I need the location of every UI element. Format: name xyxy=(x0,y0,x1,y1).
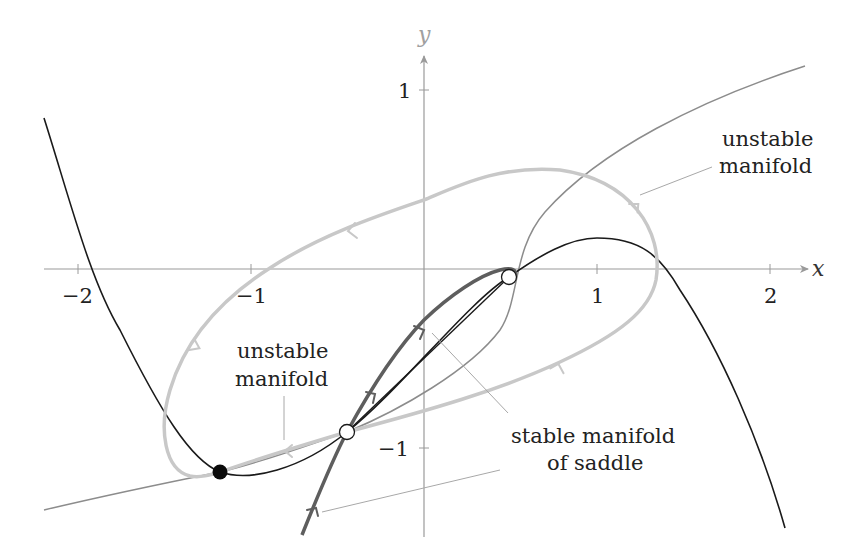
x-tick-label-minus2: −2 xyxy=(62,284,93,308)
y-axis-label: y xyxy=(417,22,431,47)
annotation-unstable-right-line1: unstable xyxy=(722,127,813,151)
stable-node-point xyxy=(213,465,228,480)
saddle-point xyxy=(340,425,355,440)
x-axis-label: x xyxy=(812,256,825,281)
leader-stable-2 xyxy=(322,470,500,512)
annotation-unstable-left-line1: unstable xyxy=(237,339,328,363)
annotation-unstable-right-line2: manifold xyxy=(719,154,812,178)
annotation-unstable-left-line2: manifold xyxy=(235,367,328,391)
x-tick-label-1: 1 xyxy=(591,284,604,308)
annotation-stable-line2: of saddle xyxy=(547,451,643,475)
leader-unstable-right xyxy=(640,167,712,195)
annotation-stable-line1: stable manifold xyxy=(511,424,675,448)
black-nullcline-curve xyxy=(44,118,785,528)
annotation-leaders xyxy=(284,167,712,512)
x-tick-label-2: 2 xyxy=(764,284,777,308)
phase-portrait-figure: x y −2 −1 1 2 1 −1 unstable manifold u xyxy=(0,0,866,560)
y-tick-label-1: 1 xyxy=(398,79,411,103)
unstable-point xyxy=(502,270,517,285)
axes xyxy=(44,56,808,537)
leader-stable-1 xyxy=(432,333,508,413)
y-tick-label-minus1: −1 xyxy=(378,437,409,461)
